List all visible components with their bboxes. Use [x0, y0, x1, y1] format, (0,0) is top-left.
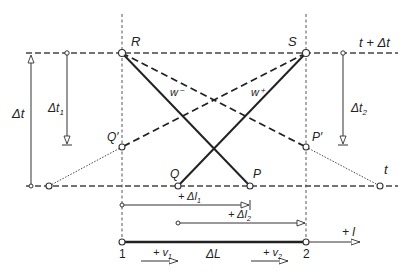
label-Q: Q — [170, 167, 179, 181]
point-Q — [175, 183, 181, 189]
dt2-arrow-head-icon — [340, 136, 346, 144]
point-section-2 — [303, 239, 309, 245]
label-time-bottom: t — [384, 162, 389, 177]
label-dt2: Δt2 — [350, 101, 367, 117]
label-dl2: + Δl2 — [228, 208, 251, 222]
label-w-plus: w⁺ — [251, 86, 266, 98]
point-Pprime — [303, 144, 309, 150]
label-time-top: t + Δt — [359, 35, 391, 50]
label-dt1: Δt1 — [47, 101, 64, 117]
label-dL: ΔL — [205, 247, 221, 261]
point-right-extension — [377, 183, 383, 189]
label-l-axis: + l — [342, 225, 355, 239]
characteristics-diagram: R S t + Δt t Q′ P′ Q P w⁻ w⁺ Δt Δt1 Δt2 … — [0, 0, 413, 278]
label-Qprime: Q′ — [107, 130, 119, 144]
label-section-2: 2 — [303, 247, 310, 261]
characteristic-S-Qprime — [122, 53, 306, 147]
dl2-arrow-head-icon — [297, 220, 305, 226]
extension-Qprime — [49, 147, 122, 186]
dt-arrow-head-icon — [28, 55, 34, 63]
label-R: R — [131, 34, 140, 49]
label-Pprime: P′ — [312, 130, 323, 144]
label-dl1: + Δl1 — [178, 190, 201, 204]
characteristic-R-P — [122, 53, 250, 186]
extension-Pprime — [306, 147, 380, 186]
point-R — [119, 50, 126, 57]
label-w-minus: w⁻ — [170, 86, 185, 98]
point-left-extension — [46, 183, 52, 189]
label-dt: Δt — [11, 106, 26, 121]
label-P: P — [253, 167, 261, 181]
point-section-1 — [119, 239, 125, 245]
point-P — [247, 183, 253, 189]
label-section-1: 1 — [119, 247, 126, 261]
point-Qprime — [119, 144, 125, 150]
label-v1: + v1 — [153, 246, 172, 260]
characteristic-S-Q — [178, 53, 306, 186]
label-v2: + v2 — [263, 246, 282, 260]
point-S — [303, 50, 310, 57]
label-S: S — [288, 34, 297, 49]
dt1-arrow-head-icon — [64, 136, 70, 144]
